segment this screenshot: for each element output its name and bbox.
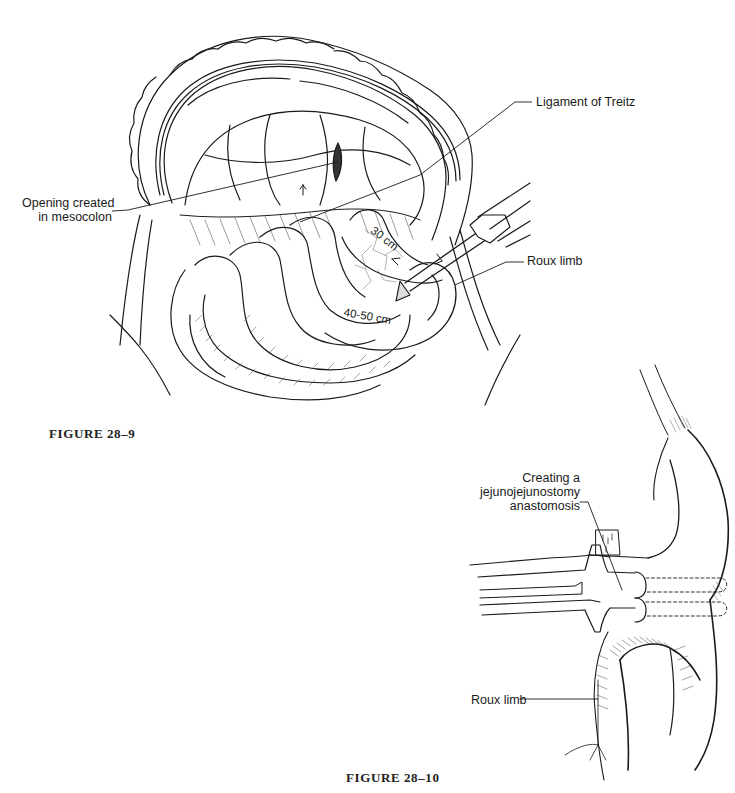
label-creating-jejunojejunostomy: Creating a jejunojejunostomy anastomosis [480, 471, 580, 513]
label-opening-line-1: Opening created [22, 196, 112, 210]
label-ligament-of-treitz: Ligament of Treitz [536, 95, 635, 109]
label-opening-line-2: in mesocolon [22, 210, 112, 224]
label-creating-line-2: jejunojejunostomy [480, 485, 580, 499]
label-roux-limb-fig9: Roux limb [527, 254, 583, 268]
leader-ligament-treitz [300, 102, 532, 222]
figure-caption-28-9: FIGURE 28–9 [49, 426, 135, 442]
figure-28-10-illustration [470, 350, 735, 790]
figure-caption-28-10: FIGURE 28–10 [346, 770, 440, 786]
label-creating-line-1: Creating a [480, 471, 580, 485]
label-roux-limb-fig10: Roux limb [471, 693, 527, 707]
label-opening-mesocolon: Opening created in mesocolon [22, 196, 112, 224]
textbook-page: Opening created in mesocolon Ligament of… [0, 0, 735, 793]
jejunojejunostomy-illustration [470, 350, 735, 790]
label-creating-line-3: anastomosis [480, 499, 580, 513]
leader-opening-mesocolon [112, 162, 338, 211]
leader-roux-limb-9 [455, 262, 524, 285]
